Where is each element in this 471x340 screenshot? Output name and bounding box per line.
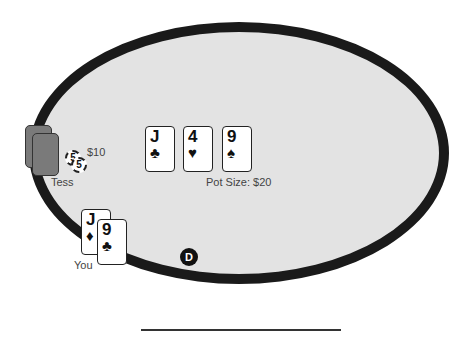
opponent-card-back-2 <box>32 133 59 176</box>
opponent-name: Tess <box>51 176 74 188</box>
card-rank: J <box>150 128 159 145</box>
spade-icon: ♠ <box>227 145 235 160</box>
divider-line <box>141 329 341 331</box>
pot-size: Pot Size: $20 <box>206 176 271 188</box>
card-rank: 4 <box>188 128 197 145</box>
board-card-1: J ♣ <box>145 126 175 172</box>
card-rank: 9 <box>227 128 236 145</box>
hero-card-2: 9 ♣ <box>97 219 127 265</box>
board-card-3: 9 ♠ <box>222 126 252 172</box>
board-card-2: 4 ♥ <box>183 126 213 172</box>
heart-icon: ♥ <box>188 145 197 160</box>
bet-chip: 5 <box>71 157 87 173</box>
hero-name: You <box>74 259 93 271</box>
card-rank: 9 <box>102 221 111 238</box>
card-rank: J <box>86 211 95 228</box>
diamond-icon: ♦ <box>86 228 94 243</box>
club-icon: ♣ <box>102 238 112 253</box>
opponent-bet-amount: $10 <box>87 146 105 158</box>
club-icon: ♣ <box>150 145 160 160</box>
dealer-button: D <box>180 248 198 266</box>
